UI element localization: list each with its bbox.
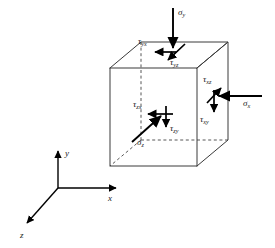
axis-y-label: y (64, 148, 69, 158)
stress-diagram-canvas: σy τyx τyz σx τxz (0, 0, 275, 248)
tau-zx-label: τzx (133, 99, 142, 110)
cube-front-face (110, 68, 197, 166)
stress-element-figure: σy τyx τyz σx τxz (0, 0, 275, 248)
cube-hidden-edges (110, 42, 228, 166)
sigma-z-label: σz (137, 137, 144, 148)
axis-z-label: z (19, 230, 24, 240)
top-face-stress-group: σy τyx τyz (138, 7, 185, 68)
sigma-y-label: σy (178, 7, 185, 18)
sigma-x-label: σx (243, 98, 250, 109)
axis-x-label: x (107, 193, 112, 203)
stress-cube (110, 42, 228, 166)
tau-xy-label: τxy (200, 114, 209, 125)
right-face-stress-group: σx τxz τxy (200, 74, 262, 125)
front-face-stress-group: σz τzx τzy (132, 99, 179, 148)
cube-right-face (197, 42, 228, 166)
tau-zy-label: τzy (170, 123, 179, 134)
tau-xz-label: τxz (203, 74, 212, 85)
tau-yx-label: τyx (138, 36, 147, 47)
tau-yz-label: τyz (170, 57, 179, 68)
axis-z-arrow (27, 188, 58, 223)
coordinate-triad: y x z (19, 148, 116, 240)
cube-solid-edges (110, 42, 228, 166)
cube-top-face (110, 42, 228, 68)
